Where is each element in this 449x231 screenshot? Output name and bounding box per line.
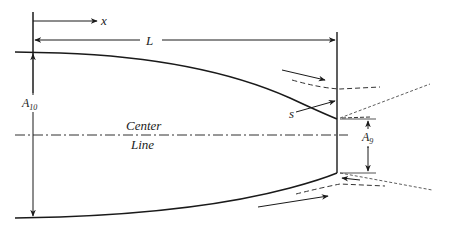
lower-shear-layer-outer [296,184,385,194]
center-line-label-1: Center [126,118,162,133]
x-axis-label: x [100,13,107,28]
center-line-label-2: Line [130,137,154,152]
nozzle-lower-contour [15,173,337,218]
upper-shear-layer-inner [342,117,370,118]
inlet-area-label: A10 [21,96,37,112]
upper-shear-layer-outer [292,80,380,89]
length-label: L [145,33,153,48]
nozzle-diagram: x L Center Line A10 s A9 [0,0,449,231]
lower-recirculation-arrow [342,178,360,180]
upper-flow-arrow [282,70,325,80]
upper-plume-boundary [340,84,430,118]
lower-flow-arrow [258,196,328,207]
separation-point-label: s [289,106,294,121]
lower-plume-boundary [340,173,432,190]
